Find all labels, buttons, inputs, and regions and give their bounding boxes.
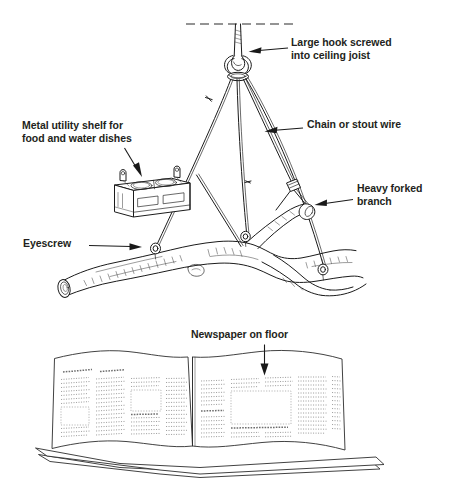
ceiling-hook-icon xyxy=(225,24,252,81)
illustration-figure: Large hook screwed into ceiling joist Ch… xyxy=(0,0,451,492)
callout-arrow-hook xyxy=(249,47,289,53)
label-eyescrew: Eyescrew xyxy=(23,237,103,250)
label-large-hook: Large hook screwed into ceiling joist xyxy=(291,36,441,61)
eyescrew-left xyxy=(151,243,161,259)
utility-shelf xyxy=(115,166,191,217)
newspaper-illustration xyxy=(36,350,385,477)
callout-arrow-branch xyxy=(315,200,354,207)
eyescrew-right xyxy=(318,264,328,280)
callout-arrow-shelf xyxy=(125,148,143,177)
label-heavy-forked-branch: Heavy forked branch xyxy=(357,182,447,207)
label-metal-utility-shelf: Metal utility shelf for food and water d… xyxy=(22,119,182,144)
label-newspaper-on-floor: Newspaper on floor xyxy=(191,328,321,341)
callout-arrow-chain xyxy=(265,127,304,133)
label-chain-or-wire: Chain or stout wire xyxy=(307,118,447,131)
